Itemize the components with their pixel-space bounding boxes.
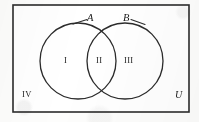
venn-diagram-figure: A B I II III IV U <box>0 0 199 122</box>
region-label-iv: IV <box>22 90 32 99</box>
region-label-iii: III <box>124 56 133 65</box>
universal-set-label: U <box>175 90 182 100</box>
set-b-label: B <box>123 13 129 24</box>
region-label-i: I <box>64 56 67 65</box>
region-label-ii: II <box>96 56 102 65</box>
set-a-label: A <box>87 13 93 24</box>
